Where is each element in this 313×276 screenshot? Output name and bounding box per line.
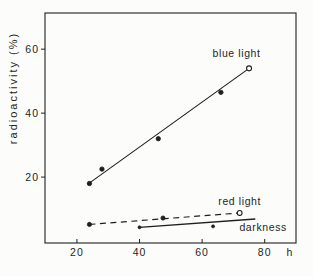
annotation-darkness: darkness	[239, 221, 286, 233]
series-point-red-light	[237, 211, 242, 216]
series-point-blue-light	[247, 66, 252, 71]
x-tick-label-20: 20	[70, 246, 84, 258]
series-point-blue-light	[87, 181, 91, 185]
series-point-blue-light	[100, 167, 104, 171]
y-tick-label-40: 40	[25, 107, 39, 119]
x-axis-label: h	[287, 246, 294, 258]
x-tick-label-80: 80	[258, 246, 272, 258]
series-point-darkness	[138, 226, 141, 229]
y-tick-label-60: 60	[25, 43, 39, 55]
plot-area: 20406080204060blue lightred lightdarknes…	[25, 13, 296, 258]
annotation-red-light: red light	[218, 195, 261, 207]
series-point-red-light	[87, 222, 91, 226]
y-tick-label-20: 20	[25, 171, 39, 183]
x-tick-label-60: 60	[195, 246, 209, 258]
chart-canvas: radioactivity (%) h 20406080204060blue l…	[0, 0, 313, 276]
chart-figure: radioactivity (%) h 20406080204060blue l…	[0, 0, 313, 276]
series-line-blue-light	[88, 68, 249, 184]
annotation-blue-light: blue light	[213, 47, 261, 59]
series-line-darkness	[140, 219, 256, 227]
series-point-blue-light	[219, 90, 223, 94]
y-axis-label: radioactivity (%)	[7, 32, 19, 144]
series-point-darkness	[212, 225, 215, 228]
series-point-blue-light	[156, 137, 160, 141]
series-point-red-light	[161, 216, 165, 220]
x-tick-label-40: 40	[133, 246, 147, 258]
